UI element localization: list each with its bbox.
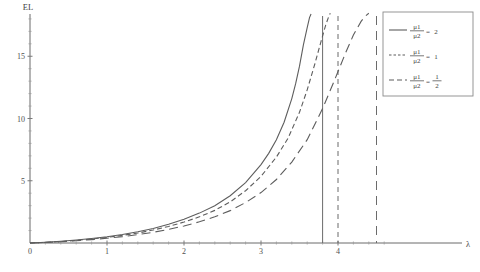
chart-container: 5101501234ELλμ1μ2=2μ1μ2=1μ1μ2=12	[0, 0, 480, 272]
x-axis-tick-label: 1	[105, 247, 109, 256]
y-axis-tick-label: 10	[17, 115, 25, 124]
x-axis-tick-label: 2	[182, 247, 186, 256]
curve-mu1_over_mu2_eq_1	[30, 13, 330, 243]
y-axis-tick-label: 5	[21, 177, 25, 186]
y-axis-tick-label: 15	[17, 52, 25, 61]
legend-equals-sign: =	[426, 78, 430, 86]
x-axis-tick-label: 4	[336, 247, 340, 256]
legend-fraction-denominator: μ2	[413, 32, 421, 40]
legend-value: 2	[434, 28, 438, 36]
curve-mu1_over_mu2_eq_one_half	[30, 13, 369, 243]
x-axis-title: λ	[466, 239, 471, 249]
legend-fraction-denominator: μ2	[413, 82, 421, 90]
x-axis-tick-label: 0	[28, 247, 32, 256]
y-axis-title: EL	[23, 2, 33, 12]
legend-equals-sign: =	[426, 28, 430, 36]
legend-equals-sign: =	[426, 53, 430, 61]
el-vs-lambda-plot: 5101501234ELλμ1μ2=2μ1μ2=1μ1μ2=12	[0, 0, 480, 272]
legend-value-numerator: 1	[435, 73, 439, 81]
legend-fraction-numerator: μ1	[413, 23, 421, 31]
legend-fraction-numerator: μ1	[413, 48, 421, 56]
legend-value: 1	[434, 53, 438, 61]
curve-mu1_over_mu2_eq_2	[30, 14, 311, 243]
legend-fraction-denominator: μ2	[413, 57, 421, 65]
legend-fraction-numerator: μ1	[413, 73, 421, 81]
x-axis-tick-label: 3	[259, 247, 263, 256]
legend-value-denominator: 2	[435, 82, 439, 90]
